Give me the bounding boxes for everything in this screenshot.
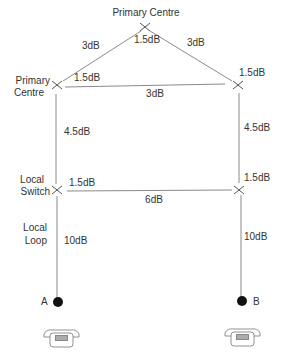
link-right-local-loop-loss: 10dB (244, 231, 267, 242)
left-switch-local-loss: 1.5dB (69, 177, 95, 188)
attenuation-network-diagram: Primary Centre 1.5dB Primary Centre 1.5d… (0, 0, 282, 364)
node-left-primary-mark (52, 81, 62, 89)
link-primary-horizontal-loss: 3dB (146, 88, 164, 99)
link-primary-horizontal (65, 84, 225, 87)
subscriber-a-label: A (41, 296, 48, 307)
subscriber-b-label: B (253, 296, 260, 307)
right-primary-local-loss: 1.5dB (239, 67, 265, 78)
link-left-primary-switch-loss: 4.5dB (64, 126, 90, 137)
left-primary-label-line2: Centre (14, 87, 44, 98)
local-switch-label-line1: Local (20, 174, 44, 185)
left-primary-label-line1: Primary (16, 75, 50, 86)
left-primary-local-loss: 1.5dB (74, 72, 100, 83)
node-right-primary-mark (233, 81, 243, 89)
top-primary-centre-label: Primary Centre (112, 7, 179, 18)
right-switch-local-loss: 1.5dB (244, 172, 270, 183)
link-top-right-loss: 3dB (187, 37, 205, 48)
local-loop-label-line2: Loop (25, 235, 47, 246)
link-right-primary-switch-loss: 4.5dB (244, 122, 270, 133)
node-top-primary-mark (140, 23, 150, 31)
local-loop-label-line1: Local (23, 222, 47, 233)
link-switch-horizontal-loss: 6dB (145, 194, 163, 205)
subscriber-a-dot (53, 297, 63, 307)
telephone-b-icon (225, 329, 260, 346)
subscriber-b-dot (237, 296, 247, 306)
local-switch-label-line2: Switch (21, 186, 50, 197)
top-primary-local-loss: 1.5dB (134, 34, 160, 45)
telephone-a-icon (44, 330, 79, 347)
link-switch-horizontal (67, 190, 232, 191)
link-top-left-loss: 3dB (82, 40, 100, 51)
node-left-switch-mark (52, 186, 62, 194)
link-left-local-loop-loss: 10dB (64, 235, 87, 246)
node-right-switch-mark (234, 186, 244, 194)
